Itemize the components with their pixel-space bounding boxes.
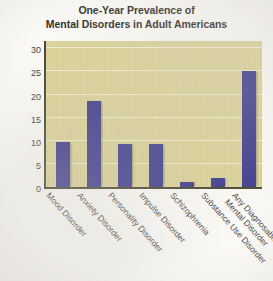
- y-axis: 051015202530: [0, 41, 41, 189]
- gridline: [46, 94, 262, 95]
- y-axis-tick-label: 15: [3, 115, 41, 124]
- chart-title-line-1: One-Year Prevalence of: [0, 4, 273, 18]
- x-axis-tick-label-line: Personality Disorder: [106, 191, 164, 254]
- y-axis-tick-label: 5: [3, 161, 41, 170]
- bar: [87, 101, 101, 187]
- gridline: [46, 140, 262, 141]
- bar: [242, 71, 256, 187]
- x-axis: Mood DisorderAnxiety DisorderPersonality…: [0, 191, 273, 281]
- x-axis-tick-label: Personality Disorder: [106, 191, 164, 254]
- bar-chart-figure: One-Year Prevalence of Mental Disorders …: [0, 0, 273, 281]
- y-axis-tick-label: 25: [3, 69, 41, 78]
- bar: [180, 182, 194, 187]
- gridline: [46, 117, 262, 118]
- gridline: [46, 47, 262, 48]
- y-axis-tick-label: 30: [3, 46, 41, 55]
- bar: [118, 144, 132, 187]
- chart-title: One-Year Prevalence of Mental Disorders …: [0, 4, 273, 31]
- bar: [149, 144, 163, 187]
- y-axis-tick-label: 10: [3, 138, 41, 147]
- gridline: [46, 70, 262, 71]
- bar: [211, 178, 225, 187]
- bar: [56, 142, 70, 187]
- y-axis-tick-label: 20: [3, 92, 41, 101]
- chart-title-line-2: Mental Disorders in Adult Americans: [0, 18, 273, 32]
- plot-area: [44, 41, 262, 189]
